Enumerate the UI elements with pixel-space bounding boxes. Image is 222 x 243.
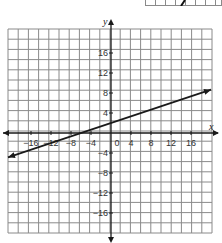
coordinate-plane: −16−12−8−40481216161284−4−8−12−16 x y	[0, 0, 222, 243]
y-tick-label: 8	[103, 88, 108, 98]
y-axis-down-arrow	[108, 237, 114, 243]
y-tick-label: −4	[98, 148, 108, 158]
grid	[8, 29, 212, 233]
x-tick-label: 8	[148, 138, 153, 148]
y-axis-up-arrow	[108, 19, 114, 25]
y-tick-label: 16	[98, 48, 108, 58]
x-tick-label: −8	[66, 138, 76, 148]
x-tick-label: 4	[128, 138, 133, 148]
x-axis-right-arrow	[213, 130, 219, 136]
y-tick-label: 12	[98, 68, 108, 78]
y-tick-label: 4	[103, 108, 108, 118]
x-tick-label: −4	[86, 138, 96, 148]
line-arrowhead	[8, 152, 16, 158]
x-axis-label: x	[208, 121, 214, 132]
x-axis-left-arrow	[3, 130, 9, 136]
x-tick-label: 12	[166, 138, 176, 148]
line-arrowhead	[203, 89, 211, 95]
x-tick-label: 0	[114, 138, 119, 148]
y-tick-label: −16	[93, 208, 108, 218]
x-tick-label: 16	[186, 138, 196, 148]
y-tick-label: −12	[93, 188, 108, 198]
x-tick-label: −16	[23, 138, 38, 148]
y-tick-label: −8	[98, 168, 108, 178]
y-axis-label: y	[102, 16, 108, 27]
